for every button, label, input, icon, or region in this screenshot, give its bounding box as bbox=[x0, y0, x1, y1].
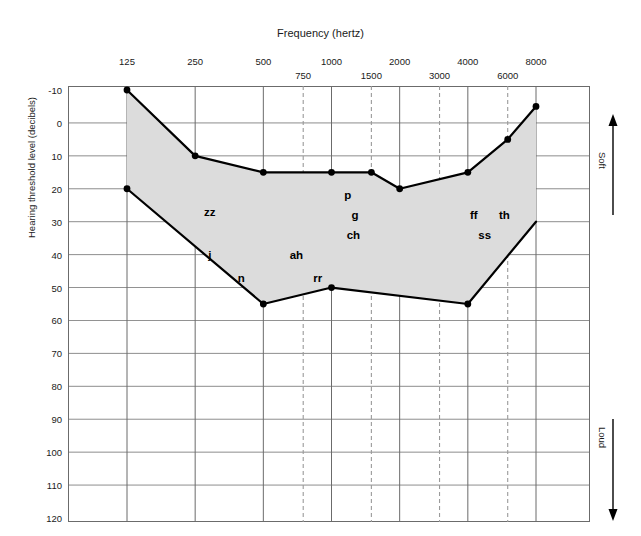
y-tick-20: 20 bbox=[28, 183, 62, 194]
x-axis-title: Frequency (hertz) bbox=[0, 27, 641, 39]
y-tick-0: 0 bbox=[28, 117, 62, 128]
x-tick-6000: 6000 bbox=[497, 70, 518, 81]
audiogram-chart: Frequency (hertz) Hearing threshold leve… bbox=[0, 0, 641, 536]
chart-canvas bbox=[68, 86, 590, 522]
x-tick-1500: 1500 bbox=[361, 70, 382, 81]
x-tick-3000: 3000 bbox=[429, 70, 450, 81]
y-tick-90: 90 bbox=[28, 414, 62, 425]
phoneme-label-ff: ff bbox=[470, 209, 478, 221]
soft-label: Soft bbox=[597, 152, 608, 169]
y-tick--10: -10 bbox=[28, 85, 62, 96]
y-tick-70: 70 bbox=[28, 348, 62, 359]
phoneme-label-ah: ah bbox=[290, 249, 303, 261]
x-tick-4000: 4000 bbox=[457, 56, 478, 67]
phoneme-label-zz: zz bbox=[204, 206, 216, 218]
phoneme-label-n: n bbox=[238, 272, 245, 284]
y-tick-60: 60 bbox=[28, 315, 62, 326]
y-tick-50: 50 bbox=[28, 282, 62, 293]
x-tick-125: 125 bbox=[119, 56, 135, 67]
x-tick-750: 750 bbox=[295, 70, 311, 81]
y-tick-30: 30 bbox=[28, 216, 62, 227]
y-tick-110: 110 bbox=[28, 480, 62, 491]
loud-label: Loud bbox=[597, 427, 608, 448]
y-tick-10: 10 bbox=[28, 150, 62, 161]
y-tick-40: 40 bbox=[28, 249, 62, 260]
phoneme-label-ss: ss bbox=[478, 229, 491, 241]
y-tick-100: 100 bbox=[28, 447, 62, 458]
phoneme-label-ch: ch bbox=[347, 229, 360, 241]
phoneme-label-rr: rr bbox=[313, 272, 322, 284]
plot-area: zzjnahrrpgchffssth bbox=[68, 86, 590, 522]
soft-direction-indicator: Soft bbox=[598, 110, 628, 220]
loud-direction-indicator: Loud bbox=[598, 415, 628, 525]
y-tick-80: 80 bbox=[28, 381, 62, 392]
x-tick-250: 250 bbox=[187, 56, 203, 67]
x-tick-500: 500 bbox=[255, 56, 271, 67]
phoneme-label-j: j bbox=[208, 249, 211, 261]
x-tick-1000: 1000 bbox=[321, 56, 342, 67]
phoneme-label-g: g bbox=[351, 209, 358, 221]
phoneme-label-th: th bbox=[499, 209, 510, 221]
phoneme-label-p: p bbox=[344, 189, 351, 201]
x-tick-8000: 8000 bbox=[525, 56, 546, 67]
y-tick-120: 120 bbox=[28, 513, 62, 524]
x-tick-2000: 2000 bbox=[389, 56, 410, 67]
